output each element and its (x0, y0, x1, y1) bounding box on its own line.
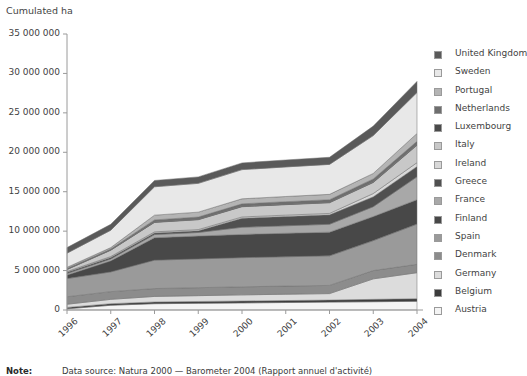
legend-item[interactable]: Portugal (432, 85, 526, 103)
legend-item[interactable]: Austria (432, 304, 526, 322)
legend-label: Italy (455, 139, 475, 150)
y-tick-label: 25 000 000 (2, 107, 60, 117)
legend-swatch-icon (434, 161, 442, 169)
legend-item[interactable]: Spain (432, 231, 526, 249)
legend-swatch-icon (434, 106, 442, 114)
legend-swatch-icon (434, 252, 442, 260)
legend-label: Denmark (455, 249, 496, 260)
note-label: Note: (6, 366, 32, 376)
y-tick-label: 10 000 000 (2, 225, 60, 235)
chart-legend: United KingdomSwedenPortugalNetherlandsL… (432, 48, 526, 322)
chart-note: Note: Data source: Natura 2000 — Baromet… (0, 366, 526, 376)
y-tick-label: 20 000 000 (2, 146, 60, 156)
legend-item[interactable]: Sweden (432, 66, 526, 84)
plot-area (0, 0, 430, 340)
legend-label: France (455, 194, 485, 205)
legend-label: Spain (455, 231, 480, 242)
legend-swatch-icon (434, 234, 442, 242)
legend-swatch-icon (434, 197, 442, 205)
legend-item[interactable]: Germany (432, 268, 526, 286)
legend-label: Finland (455, 213, 487, 224)
legend-label: Luxembourg (455, 121, 511, 132)
legend-item[interactable]: Greece (432, 176, 526, 194)
legend-swatch-icon (434, 179, 442, 187)
legend-label: United Kingdom (455, 48, 527, 59)
legend-swatch-icon (434, 69, 442, 77)
legend-swatch-icon (434, 142, 442, 150)
legend-label: Ireland (455, 158, 486, 169)
legend-item[interactable]: Belgium (432, 286, 526, 304)
legend-item[interactable]: Finland (432, 213, 526, 231)
legend-item[interactable]: Luxembourg (432, 121, 526, 139)
legend-item[interactable]: Netherlands (432, 103, 526, 121)
legend-swatch-icon (434, 51, 442, 59)
legend-swatch-icon (434, 289, 442, 297)
legend-item[interactable]: Ireland (432, 158, 526, 176)
legend-swatch-icon (434, 216, 442, 224)
legend-item[interactable]: United Kingdom (432, 48, 526, 66)
y-tick-label: 35 000 000 (2, 28, 60, 38)
legend-item[interactable]: Italy (432, 139, 526, 157)
legend-label: Portugal (455, 85, 492, 96)
legend-label: Belgium (455, 286, 492, 297)
legend-label: Austria (455, 304, 487, 315)
y-tick-label: 30 000 000 (2, 67, 60, 77)
note-text: Data source: Natura 2000 — Barometer 200… (62, 366, 372, 376)
legend-swatch-icon (434, 88, 442, 96)
legend-label: Germany (455, 268, 496, 279)
legend-swatch-icon (434, 307, 442, 315)
plot-svg (0, 0, 430, 340)
legend-item[interactable]: Denmark (432, 249, 526, 267)
y-tick-label: 0 (2, 304, 60, 314)
legend-label: Greece (455, 176, 487, 187)
y-tick-label: 5 000 000 (2, 265, 60, 275)
legend-swatch-icon (434, 271, 442, 279)
legend-item[interactable]: France (432, 194, 526, 212)
y-tick-label: 15 000 000 (2, 186, 60, 196)
legend-label: Netherlands (455, 103, 510, 114)
legend-label: Sweden (455, 66, 491, 77)
legend-swatch-icon (434, 124, 442, 132)
